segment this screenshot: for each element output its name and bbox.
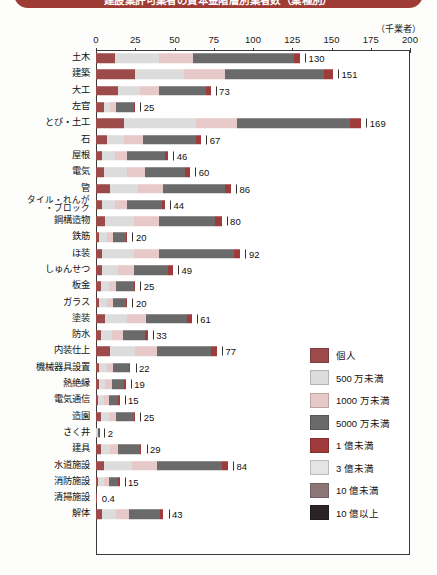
bar-segment-個人 — [96, 314, 105, 324]
row-value-熱絶縁: 19 — [128, 379, 145, 390]
row-label-建築: 建築 — [72, 70, 90, 79]
row-value-造園: 25 — [137, 411, 154, 422]
bar-segment-5000 万未満 — [127, 151, 165, 161]
bar-row: とび・土工169 — [0, 115, 437, 131]
bar-segment-500 万未満 — [101, 282, 109, 292]
bar-segment-個人 — [96, 167, 104, 177]
row-label-左官: 左官 — [72, 102, 90, 111]
legend-label: 500 万未満 — [336, 371, 385, 385]
bar-segment-5000 万未満 — [113, 298, 126, 308]
bar-segment-500 万未満 — [110, 347, 135, 357]
bar-segment-1 億未満 — [350, 119, 361, 129]
legend-item-5000 万未満[interactable]: 5000 万未満 — [310, 412, 432, 435]
legend-item-3 億未満[interactable]: 3 億未満 — [310, 457, 432, 480]
row-label-消防施設: 消防施設 — [54, 477, 90, 486]
bar-row: 管86 — [0, 180, 437, 196]
row-value-とび・土工: 169 — [363, 118, 385, 129]
bar-segment-5000 万未満 — [129, 510, 160, 520]
bar-segment-500 万未満 — [105, 216, 133, 226]
bar-segment-1000 万未満 — [116, 510, 129, 520]
bar-segment-5000 万未満 — [112, 379, 125, 389]
bar-segment-1000 万未満 — [112, 330, 123, 340]
bar-segment-1000 万未満 — [124, 135, 143, 145]
stacked-bar — [96, 428, 99, 438]
row-value-建築: 151 — [335, 69, 357, 80]
row-value-塗装: 61 — [194, 313, 211, 324]
stacked-bar — [96, 347, 217, 357]
bar-segment-1 億未満 — [165, 151, 168, 161]
bar-segment-1 億未満 — [187, 314, 192, 324]
stacked-bar — [96, 151, 168, 161]
bar-row: 防水33 — [0, 327, 437, 343]
x-axis-tick-100: 100 — [245, 34, 261, 45]
row-value-ガラス: 20 — [129, 297, 146, 308]
bar-segment-1 億未満 — [145, 330, 148, 340]
bar-segment-1 億未満 — [118, 477, 120, 487]
chart-page: 建設業許可業者の資本金階層別業者数（業種別） （千業者） 02550751001… — [0, 0, 437, 575]
bar-segment-1 億未満 — [196, 135, 201, 145]
bar-segment-5000 万未満 — [145, 167, 186, 177]
stacked-bar — [96, 461, 228, 471]
row-label-造園: 造園 — [72, 412, 90, 421]
stacked-bar — [96, 119, 361, 129]
x-axis-tick-75: 75 — [208, 34, 219, 45]
row-value-土木: 130 — [302, 53, 324, 64]
bar-segment-個人 — [96, 493, 97, 503]
row-value-ほ装: 92 — [242, 248, 259, 259]
bar-segment-1 億未満 — [134, 412, 136, 422]
row-value-鉄筋: 20 — [129, 232, 146, 243]
legend: 個人500 万未満1000 万未満5000 万未満1 億未満3 億未満10 億未… — [310, 344, 432, 524]
row-label-とび・土工: とび・土工 — [45, 119, 90, 128]
bar-segment-5000 万未満 — [116, 102, 133, 112]
bar-segment-1000 万未満 — [115, 151, 128, 161]
bar-segment-5000 万未満 — [134, 265, 169, 275]
legend-item-10 億未満[interactable]: 10 億未満 — [310, 479, 432, 502]
bar-segment-5000 万未満 — [113, 363, 129, 373]
row-label-板金: 板金 — [72, 282, 90, 291]
row-value-管: 86 — [233, 183, 250, 194]
bar-segment-500 万未満 — [99, 298, 107, 308]
bar-segment-1 億未満 — [185, 167, 190, 177]
legend-item-10 億以上[interactable]: 10 億以上 — [310, 502, 432, 525]
legend-label: 3 億未満 — [336, 461, 374, 475]
bar-row: しゅんせつ49 — [0, 262, 437, 278]
row-value-石: 67 — [203, 134, 220, 145]
bar-segment-1000 万未満 — [140, 86, 159, 96]
bar-segment-5000 万未満 — [143, 135, 196, 145]
bar-segment-5000 万未満 — [163, 184, 224, 194]
bar-segment-500 万未満 — [104, 167, 128, 177]
bar-segment-500 万未満 — [118, 86, 140, 96]
row-value-機械器具設置: 22 — [133, 362, 150, 373]
bar-segment-1 億未満 — [134, 282, 136, 292]
stacked-bar — [96, 282, 135, 292]
stacked-bar — [96, 314, 192, 324]
row-label-電気: 電気 — [72, 167, 90, 176]
row-label-石: 石 — [81, 135, 90, 144]
bar-segment-個人 — [96, 135, 107, 145]
bar-row: 石67 — [0, 131, 437, 147]
bar-segment-個人 — [96, 347, 110, 357]
bar-segment-500 万未満 — [107, 135, 124, 145]
x-axis-tick-200: 200 — [402, 34, 418, 45]
bar-segment-個人 — [96, 102, 104, 112]
stacked-bar — [96, 86, 211, 96]
x-axis-tick-0: 0 — [93, 34, 98, 45]
bar-segment-1 億未満 — [162, 200, 165, 210]
legend-item-個人[interactable]: 個人 — [310, 344, 432, 367]
stacked-bar — [96, 379, 126, 389]
legend-item-1 億未満[interactable]: 1 億未満 — [310, 434, 432, 457]
row-value-タイル・れんが・ブロック: 44 — [167, 199, 184, 210]
legend-item-1000 万未満[interactable]: 1000 万未満 — [310, 389, 432, 412]
x-axis-tick-25: 25 — [130, 34, 141, 45]
stacked-bar — [96, 184, 231, 194]
bar-segment-1000 万未満 — [110, 445, 118, 455]
row-label-管: 管 — [81, 184, 90, 193]
bar-segment-1000 万未満 — [118, 265, 134, 275]
bar-segment-1 億未満 — [124, 379, 126, 389]
stacked-bar — [96, 167, 190, 177]
legend-item-500 万未満[interactable]: 500 万未満 — [310, 367, 432, 390]
row-label-清掃施設: 清掃施設 — [54, 493, 90, 502]
bar-row: 建築151 — [0, 66, 437, 82]
bar-segment-1 億未満 — [215, 216, 221, 226]
row-label-土木: 土木 — [72, 53, 90, 62]
